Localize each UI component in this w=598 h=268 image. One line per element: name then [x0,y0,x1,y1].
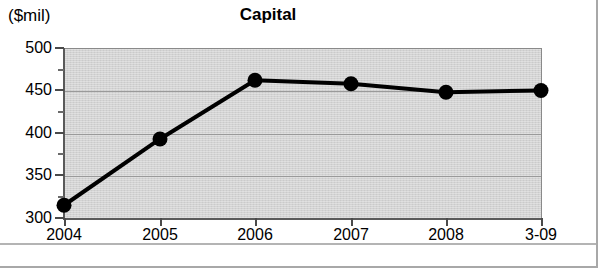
x-tick-label-3-09: 3-09 [501,226,581,244]
x-tick-3-09 [541,218,543,226]
y-tick-label-wrap-500: 500 [0,40,52,56]
y-tick-label-wrap-450: 450 [0,82,52,98]
gridline-400 [64,134,541,135]
x-tick-2004 [64,218,66,226]
y-tick-label-500: 500 [4,40,52,56]
y-tick-500 [55,47,64,49]
x-tick-2008 [446,218,448,226]
y-tick-label-300: 300 [4,210,52,226]
y-tick-label-wrap-300: 300 [0,210,52,226]
chart-title: Capital [0,4,598,26]
y-tick-label-350: 350 [4,167,52,183]
y-tick-label-400: 400 [4,125,52,141]
x-tick-2006 [255,218,257,226]
plot-area [64,48,542,218]
x-tick-label-2007: 2007 [311,226,391,244]
y-tick-350 [55,174,64,176]
x-tick-label-2008: 2008 [406,226,486,244]
gridline-450 [64,91,541,92]
x-tick-2005 [160,218,162,226]
y-minor-tick-375 [58,153,64,155]
y-tick-300 [55,217,64,219]
y-minor-tick-475 [58,69,64,71]
y-tick-label-450: 450 [4,82,52,98]
y-tick-label-wrap-350: 350 [0,167,52,183]
y-tick-450 [55,89,64,91]
x-axis-spine [63,218,543,220]
chart-figure: ($mil) Capital 500 450 400 350 300 2004 … [0,0,598,268]
x-tick-label-2004: 2004 [24,226,104,244]
y-tick-400 [55,132,64,134]
x-tick-2007 [351,218,353,226]
gridline-350 [64,176,541,177]
y-minor-tick-425 [58,111,64,113]
x-tick-label-2005: 2005 [120,226,200,244]
y-tick-label-wrap-400: 400 [0,125,52,141]
y-minor-tick-325 [58,196,64,198]
x-tick-label-2006: 2006 [215,226,295,244]
